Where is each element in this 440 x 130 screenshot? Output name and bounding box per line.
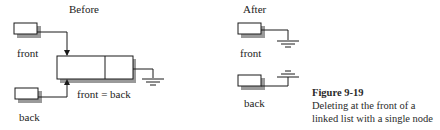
linked-list-diagram: Before front back front = back After fro… [0, 0, 440, 130]
figure-number: Figure 9-19 [312, 86, 433, 99]
after-title: After [243, 3, 266, 15]
after-back-null-line [261, 77, 288, 86]
ground-icon [277, 71, 299, 77]
ground-icon [142, 79, 164, 85]
caption-line-2: linked list with a single node [312, 112, 433, 125]
equality-label: front = back [77, 88, 131, 100]
before-front-label: front [17, 47, 38, 59]
ground-icon [277, 41, 299, 47]
after-front-pointer-box [238, 23, 265, 38]
before-front-pointer-box [14, 23, 41, 38]
figure-caption: Figure 9-19 Deleting at the front of a l… [312, 86, 433, 125]
after-front-label: front [240, 47, 261, 59]
before-back-arrow [38, 81, 67, 97]
before-title: Before [69, 3, 99, 15]
caption-line-1: Deleting at the front of a [312, 99, 433, 112]
before-front-arrow [37, 32, 67, 55]
after-front-null-line [261, 30, 288, 40]
before-node [57, 56, 136, 83]
arrow-down-icon [64, 50, 70, 56]
before-back-label: back [19, 111, 40, 123]
after-back-label: back [244, 97, 265, 109]
after-back-pointer-box [238, 75, 265, 90]
before-back-pointer-box [15, 88, 42, 103]
